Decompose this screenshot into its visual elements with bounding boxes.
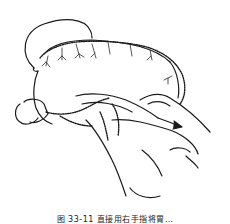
omentum-outline — [25, 20, 92, 68]
figure-caption: 图 33-11 直接用右手指将胃… — [0, 213, 230, 224]
surgical-illustration: 图 33-11 直接用右手指将胃… — [0, 0, 230, 224]
stomach-hand-drawing — [0, 0, 230, 224]
